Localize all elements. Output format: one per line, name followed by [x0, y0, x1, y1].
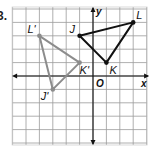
x-axis-label: x — [140, 78, 147, 89]
vertex-label: J — [69, 23, 76, 35]
vertex-point — [131, 20, 136, 25]
y-axis-label: y — [95, 6, 102, 17]
vertex-point — [51, 87, 56, 92]
vertex-point — [37, 34, 42, 39]
vertex-point — [104, 60, 109, 65]
coordinate-graph: xyOJKLJ'K'L' — [0, 0, 151, 148]
vertex-point — [77, 34, 82, 39]
vertex-label: L' — [27, 23, 36, 35]
vertex-label: K' — [80, 64, 90, 76]
y-axis-arrow-up-icon — [91, 7, 96, 12]
labels: xyOJKLJ'K'L' — [27, 6, 147, 102]
vertex-label: J' — [40, 90, 50, 102]
origin-label: O — [96, 78, 104, 89]
y-axis-arrow-down-icon — [91, 140, 96, 145]
vertex-label: K — [109, 64, 117, 76]
vertex-label: L — [136, 9, 142, 21]
